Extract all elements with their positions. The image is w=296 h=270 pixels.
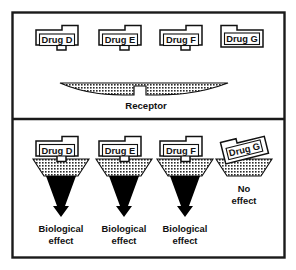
drug-f-bound-label: Drug F [166, 146, 196, 156]
effect-label-d-line1: Biological [39, 223, 84, 234]
effect-label-f-line2: effect [172, 235, 197, 246]
drug-d-bound-label: Drug D [42, 146, 73, 156]
receptor-label: Receptor [125, 100, 167, 111]
drug-f-label: Drug F [166, 35, 196, 45]
drug-g-label: Drug G [226, 34, 258, 44]
drug-d-label: Drug D [42, 35, 73, 45]
effect-label-d-line2: effect [48, 235, 73, 246]
effect-label-f-line1: Biological [163, 223, 208, 234]
figure-container: Drug D Drug E Drug F Drug G Receptor [0, 0, 296, 270]
effect-label-e-line1: Biological [102, 223, 147, 234]
effect-label-g-line2: effect [231, 195, 256, 206]
effect-label-g-line1: No [238, 183, 251, 194]
drug-e-label: Drug E [105, 35, 135, 45]
drug-e-bound-label: Drug E [105, 146, 135, 156]
drug-receptor-diagram: Drug D Drug E Drug F Drug G Receptor [0, 0, 296, 270]
effect-label-e-line2: effect [111, 235, 136, 246]
